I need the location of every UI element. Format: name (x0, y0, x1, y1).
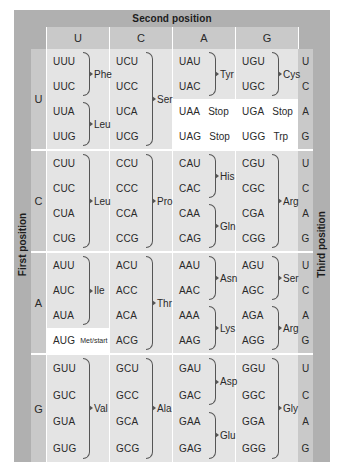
codon-block-u: UUUUUUCUUAUUGPheLeuUCUUCCUCAUCGSerUAUUAC… (31, 49, 313, 151)
codon-text: UUU (53, 56, 75, 67)
codon-text: GCU (116, 363, 139, 374)
codon-text: AGU (242, 260, 264, 271)
codon-cell: ACU (110, 253, 172, 278)
third-position-g: G (298, 435, 313, 462)
codon-cell: ACC (110, 278, 172, 303)
codon-cell: ACA (110, 303, 172, 328)
codon-column-g-g: GGUGGCGGAGGGGly (235, 355, 298, 462)
codon-text: CGU (242, 158, 265, 169)
codon-text: UGC (242, 81, 265, 92)
third-position-labels: UCAG (298, 151, 313, 251)
codon-cell: CGA (236, 201, 298, 226)
codon-cell: GCA (110, 409, 172, 436)
codon-cell: UUU (47, 49, 109, 74)
third-position-label: Third position (316, 211, 327, 278)
codon-text: ACG (116, 335, 138, 346)
codon-block-c: CCUUCUCCUACUGLeuCCUCCCCCACCGProCAUCACCAA… (31, 151, 313, 253)
codon-text: CAU (179, 158, 201, 169)
codon-text: CUU (53, 158, 75, 169)
codon-cell: AUGMet/start (47, 328, 109, 353)
genetic-code-table: Second position First position Third pos… (14, 10, 330, 462)
codon-cell: GCC (110, 382, 172, 409)
third-position-g: G (298, 124, 313, 149)
codon-text: GUG (53, 443, 76, 454)
third-position-c: C (298, 176, 313, 201)
codon-text: AUU (53, 260, 75, 271)
amino-acid-inline-label: Stop (272, 106, 293, 117)
codon-text: GGA (242, 416, 265, 427)
codon-column-c-a: CAUCACCAACAGHisGln (172, 151, 235, 251)
codon-text: AAA (179, 310, 200, 321)
codon-cell: UUG (47, 124, 109, 149)
codon-cell: UAU (173, 49, 235, 74)
codon-blocks: UUUUUUCUUAUUGPheLeuUCUUCCUCAUCGSerUAUUAC… (31, 49, 313, 462)
codon-cell: CGC (236, 176, 298, 201)
first-position-u: U (31, 49, 46, 149)
third-position-banner: Third position (313, 27, 330, 462)
third-position-a: A (298, 303, 313, 328)
codon-column-c-u: CUUCUCCUACUGLeu (46, 151, 109, 251)
codon-cell: CAC (173, 176, 235, 201)
codon-text: CCU (116, 158, 138, 169)
codon-text: ACC (116, 285, 138, 296)
codon-text: UUC (53, 81, 75, 92)
column-header-row: UCAG (31, 27, 313, 49)
codon-cell: UCC (110, 74, 172, 99)
codon-text: AGC (242, 285, 264, 296)
codon-text: GAC (179, 390, 201, 401)
codon-text: UCA (116, 106, 138, 117)
codon-cell: CGG (236, 226, 298, 251)
column-header-a: A (172, 27, 235, 49)
codon-text: AGA (242, 310, 264, 321)
codon-text: GGG (242, 443, 266, 454)
codon-cell: AUC (47, 278, 109, 303)
column-header-g: G (235, 27, 298, 49)
codon-cell: CUA (47, 201, 109, 226)
codon-cell: GUA (47, 409, 109, 436)
codon-cell: AGA (236, 303, 298, 328)
codon-cell: CCC (110, 176, 172, 201)
codon-text: GAU (179, 363, 201, 374)
header-corner-spacer (31, 27, 46, 49)
codon-text: CUA (53, 208, 75, 219)
codon-text: AGG (242, 335, 265, 346)
codon-column-u-c: UCUUCCUCAUCGSer (109, 49, 172, 149)
codon-text: GUA (53, 416, 75, 427)
codon-cell: AAU (173, 253, 235, 278)
codon-column-g-a: GAUGACGAAGAGAspGlu (172, 355, 235, 462)
third-position-u: U (298, 151, 313, 176)
codon-text: UAG (179, 131, 201, 142)
codon-text: GUU (53, 363, 76, 374)
codon-column-u-g: UGUUGCUGAStopUGGTrpCys (235, 49, 298, 149)
codon-column-a-g: AGUAGCAGAAGGSerArg (235, 253, 298, 353)
column-header-u: U (46, 27, 109, 49)
column-header-c: C (109, 27, 172, 49)
codon-text: GCG (116, 443, 139, 454)
codon-text: CCC (116, 183, 138, 194)
codon-cell: UCA (110, 99, 172, 124)
first-position-g: G (31, 355, 46, 462)
codon-column-g-c: GCUGCCGCAGCGAla (109, 355, 172, 462)
codon-cell: UGC (236, 74, 298, 99)
codon-cell: CAA (173, 201, 235, 226)
codon-cell: CCU (110, 151, 172, 176)
codon-cell: AGG (236, 328, 298, 353)
codon-cell: UAAStop (173, 99, 235, 124)
first-position-banner: First position (14, 27, 31, 462)
codon-text: GGC (242, 390, 265, 401)
codon-text: CAC (179, 183, 201, 194)
codon-text: CAA (179, 208, 200, 219)
codon-cell: AGC (236, 278, 298, 303)
codon-text: AAG (179, 335, 201, 346)
codon-column-c-g: CGUCGCCGACGGArg (235, 151, 298, 251)
third-position-a: A (298, 201, 313, 226)
third-position-g: G (298, 226, 313, 251)
codon-text: AUG (53, 335, 75, 346)
codon-cell: GAG (173, 435, 235, 462)
codon-cell: UGAStop (236, 99, 298, 124)
codon-grid: UCAG UUUUUUCUUAUUGPheLeuUCUUCCUCAUCGSerU… (31, 27, 313, 462)
codon-cell: GGC (236, 382, 298, 409)
codon-column-u-a: UAUUACUAAStopUAGStopTyr (172, 49, 235, 149)
codon-text: AUC (53, 285, 75, 296)
codon-text: GGU (242, 363, 265, 374)
